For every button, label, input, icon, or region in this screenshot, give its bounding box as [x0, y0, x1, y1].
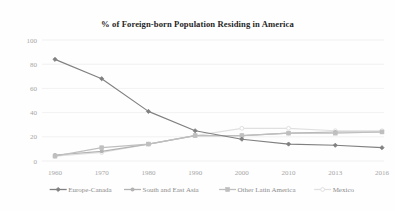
x-axis-tick-label: 2013: [328, 169, 343, 177]
data-point-marker: [333, 131, 337, 135]
data-point-marker: [53, 154, 57, 158]
legend-label: Europe-Canada: [68, 186, 112, 194]
data-point-marker: [193, 134, 197, 138]
data-point-marker: [100, 146, 104, 150]
x-axis-tick-label: 2000: [235, 169, 250, 177]
data-point-marker: [380, 130, 384, 134]
data-point-marker: [287, 126, 291, 130]
data-point-marker: [193, 129, 197, 133]
x-axis-tick-label: 1970: [95, 169, 110, 177]
legend-item-europe-canada[interactable]: Europe-Canada: [50, 186, 113, 194]
line-chart-plot: 0204060801001960197019801990200020102013…: [0, 0, 395, 211]
legend-item-other-latin-america[interactable]: Other Latin America: [219, 186, 296, 194]
data-point-marker: [226, 188, 230, 192]
x-axis-tick-label: 1960: [48, 169, 63, 177]
x-axis-labels: 19601970198019902000201020132016: [48, 169, 390, 177]
legend-item-south-and-east-asia[interactable]: South and East Asia: [124, 186, 200, 194]
data-point-marker: [147, 142, 151, 146]
data-point-marker: [380, 146, 384, 150]
data-point-marker: [321, 188, 325, 192]
data-point-marker: [333, 143, 337, 147]
y-axis-tick-label: 0: [34, 158, 38, 166]
data-point-marker: [53, 57, 57, 61]
legend-label: South and East Asia: [143, 186, 200, 194]
series-line: [55, 59, 382, 147]
y-axis-tick-label: 20: [30, 133, 38, 141]
x-axis-tick-label: 2010: [282, 169, 297, 177]
y-axis-tick-label: 60: [30, 85, 38, 93]
data-point-marker: [240, 126, 244, 130]
y-axis-tick-label: 100: [27, 37, 38, 45]
y-axis-tick-label: 40: [30, 109, 38, 117]
data-point-marker: [131, 188, 135, 192]
legend-label: Mexico: [333, 186, 355, 194]
legend-item-mexico[interactable]: Mexico: [314, 186, 354, 194]
x-axis-tick-label: 1980: [141, 169, 156, 177]
legend-label: Other Latin America: [238, 186, 297, 194]
chart-container: % of Foreign-born Population Residing in…: [0, 0, 395, 211]
data-point-marker: [286, 142, 290, 146]
x-axis-tick-label: 2016: [375, 169, 390, 177]
y-axis-tick-label: 80: [30, 61, 38, 69]
x-axis-tick-label: 1990: [188, 169, 203, 177]
data-point-marker: [56, 187, 60, 191]
gridlines: 020406080100: [27, 37, 385, 166]
chart-legend: Europe-CanadaSouth and East AsiaOther La…: [50, 186, 355, 194]
data-point-marker: [287, 131, 291, 135]
